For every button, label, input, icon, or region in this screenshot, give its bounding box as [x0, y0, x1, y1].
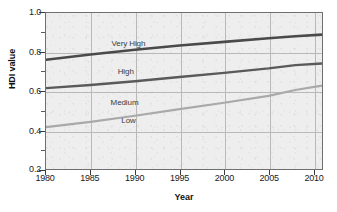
- x-axis-title: Year: [45, 192, 323, 202]
- y-tick-label-0.8: 0.8: [15, 47, 41, 57]
- y-tick-label-1.0: 1.0: [15, 7, 41, 17]
- x-tick-label-1985: 1985: [73, 173, 107, 183]
- chart-figure: HDI value Very High High Medium Low 1.0 …: [0, 0, 337, 212]
- line-very-high: [46, 35, 322, 60]
- y-tick-major-0.8: [39, 52, 45, 53]
- y-tick-major-0.4: [39, 131, 45, 132]
- x-tick-label-1980: 1980: [28, 173, 62, 183]
- x-tick-label-2005: 2005: [252, 173, 286, 183]
- y-tick-minor-0.9: [41, 32, 45, 33]
- series-label-high: High: [118, 67, 134, 76]
- y-tick-label-0.4: 0.4: [15, 126, 41, 136]
- x-tick-label-2000: 2000: [207, 173, 241, 183]
- y-tick-major-0.6: [39, 91, 45, 92]
- x-tick-label-1990: 1990: [118, 173, 152, 183]
- plot-area: Very High High Medium Low: [45, 12, 323, 170]
- series-label-medium: Medium: [111, 98, 139, 107]
- x-tick-label-2010: 2010: [297, 173, 331, 183]
- x-tick-label-1995: 1995: [163, 173, 197, 183]
- line-medium: [46, 86, 322, 128]
- series-label-very-high: Very High: [112, 39, 146, 48]
- series-layer: [46, 13, 322, 169]
- line-high: [46, 64, 322, 89]
- y-tick-major-1.0: [39, 12, 45, 13]
- y-tick-minor-0.3: [41, 150, 45, 151]
- y-tick-minor-0.7: [41, 71, 45, 72]
- series-label-low: Low: [121, 116, 135, 125]
- y-tick-label-0.6: 0.6: [15, 86, 41, 96]
- y-tick-minor-0.5: [41, 111, 45, 112]
